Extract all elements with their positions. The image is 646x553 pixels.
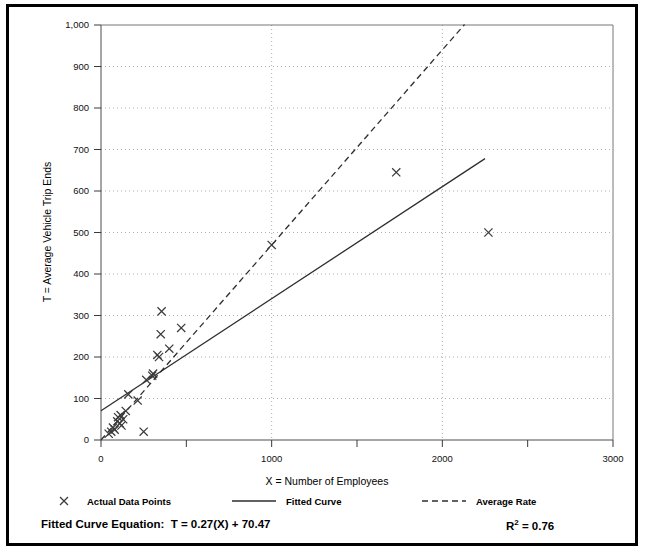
y-axis xyxy=(94,25,101,440)
r-squared-number: = 0.76 xyxy=(519,520,555,532)
legend-item-fitted-curve: Fitted Curve xyxy=(231,488,341,514)
scatter-plot-svg: 0 100 200 300 400 500 600 700 800 900 1,… xyxy=(9,7,635,493)
x-axis-title: X = Number of Employees xyxy=(266,475,389,487)
x-tick-label: 1000 xyxy=(261,453,282,464)
data-point-marker xyxy=(122,407,130,415)
y-tick-label: 500 xyxy=(73,227,89,238)
fitted-curve-line xyxy=(101,159,485,411)
data-point-marker xyxy=(165,345,173,353)
solid-line-icon xyxy=(231,494,277,508)
horizontal-gridlines xyxy=(101,67,613,399)
legend-item-actual-data-points: Actual Data Points xyxy=(55,488,171,514)
figure-frame: 0 100 200 300 400 500 600 700 800 900 1,… xyxy=(6,4,638,546)
x-tick-label: 0 xyxy=(98,453,103,464)
y-tick-label: 800 xyxy=(73,102,89,113)
legend-label: Fitted Curve xyxy=(286,496,341,507)
x-tick-labels: 0 1000 2000 3000 xyxy=(98,453,623,464)
y-tick-label: 0 xyxy=(84,434,89,445)
dashed-line-icon xyxy=(421,494,467,508)
fitted-curve-equation: Fitted Curve Equation: T = 0.27(X) + 70.… xyxy=(41,518,270,530)
y-tick-label: 900 xyxy=(73,61,89,72)
y-tick-label: 1,000 xyxy=(65,19,89,30)
y-tick-label: 300 xyxy=(73,310,89,321)
data-point-marker xyxy=(157,307,165,315)
y-tick-label: 200 xyxy=(73,351,89,362)
data-point-marker xyxy=(392,168,400,176)
x-tick-label: 2000 xyxy=(432,453,453,464)
r-squared-value: R2 = 0.76 xyxy=(506,518,554,532)
x-tick-label: 3000 xyxy=(602,453,623,464)
y-tick-label: 700 xyxy=(73,144,89,155)
legend-label: Actual Data Points xyxy=(87,496,171,507)
data-point-marker xyxy=(157,330,165,338)
chart-legend: Actual Data Points Fitted Curve Average … xyxy=(9,488,635,514)
data-point-marker xyxy=(140,428,148,436)
legend-label: Average Rate xyxy=(476,496,536,507)
y-tick-label: 100 xyxy=(73,393,89,404)
data-point-marker xyxy=(177,324,185,332)
data-point-marker xyxy=(268,241,276,249)
chart-area: 0 100 200 300 400 500 600 700 800 900 1,… xyxy=(9,7,635,543)
equation-row: Fitted Curve Equation: T = 0.27(X) + 70.… xyxy=(9,516,635,542)
y-axis-title: T = Average Vehicle Trip Ends xyxy=(41,162,53,303)
x-marker-icon xyxy=(55,494,77,508)
y-tick-label: 400 xyxy=(73,268,89,279)
data-point-markers xyxy=(105,168,493,438)
x-axis xyxy=(101,440,613,447)
equation-label: Fitted Curve Equation: xyxy=(41,518,164,530)
equation-formula: T = 0.27(X) + 70.47 xyxy=(171,518,271,530)
y-tick-label: 600 xyxy=(73,185,89,196)
legend-item-average-rate: Average Rate xyxy=(421,488,536,514)
y-tick-labels: 0 100 200 300 400 500 600 700 800 900 1,… xyxy=(65,19,89,445)
